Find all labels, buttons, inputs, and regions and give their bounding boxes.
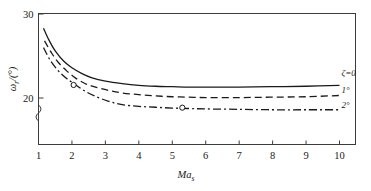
x-tick-label: 4 [136, 150, 142, 161]
x-tick-label: 6 [203, 150, 208, 161]
y-axis-title: ωr/(°) [7, 66, 21, 91]
chart-svg: 12345678910 2030 ζ=01°2° Mas ωr/(°) [0, 0, 371, 191]
curve-solid [44, 28, 340, 87]
curve-label-1: 1° [342, 85, 351, 95]
plot-frame [39, 14, 356, 145]
marker-circle-open [71, 82, 76, 87]
y-axis-ticks [39, 14, 44, 98]
x-tick-label: 8 [270, 150, 275, 161]
x-tick-label: 3 [103, 150, 108, 161]
y-tick-label: 30 [23, 9, 34, 20]
y-tick-label: 20 [23, 93, 34, 104]
x-axis-title: Mas [177, 169, 195, 183]
data-curves [44, 28, 340, 110]
x-tick-label: 7 [237, 150, 242, 161]
curve-dashdot [44, 48, 340, 110]
x-tick-label: 5 [170, 150, 175, 161]
x-axis-ticks [39, 141, 340, 145]
curve-dashed [45, 41, 340, 98]
curve-labels: ζ=01°2° [342, 68, 357, 109]
x-tick-label: 1 [36, 150, 41, 161]
x-axis-tick-labels: 12345678910 [36, 150, 345, 161]
curve-label-0: ζ=0 [342, 68, 357, 78]
y-axis-tick-labels: 2030 [23, 9, 34, 104]
figure-container: 12345678910 2030 ζ=01°2° Mas ωr/(°) [0, 0, 371, 191]
x-tick-label: 10 [334, 150, 345, 161]
marker-circle-open [180, 105, 185, 110]
x-tick-label: 9 [303, 150, 308, 161]
curve-label-2: 2° [342, 100, 351, 110]
x-tick-label: 2 [69, 150, 74, 161]
